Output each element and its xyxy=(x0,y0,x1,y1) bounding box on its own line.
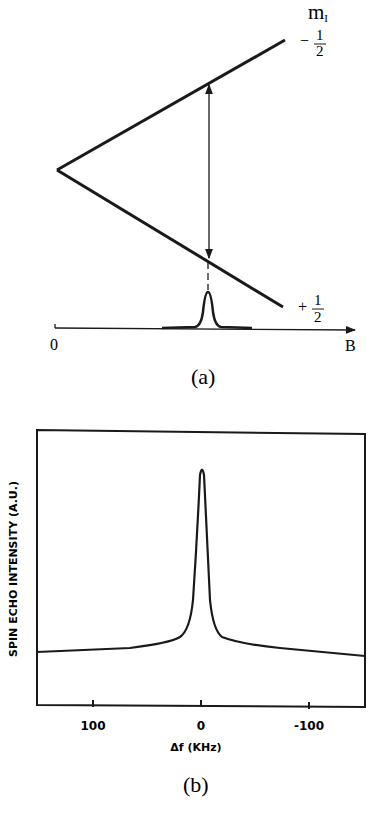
svg-text:B: B xyxy=(345,337,356,354)
energy-level-lower xyxy=(57,170,283,307)
figure-canvas: mI − 1 2 + 1 2 0 B (a) 100 0 -100 Δf (KH… xyxy=(0,0,387,825)
svg-text:100: 100 xyxy=(80,719,105,733)
svg-text:2: 2 xyxy=(314,309,322,325)
svg-text:−: − xyxy=(300,32,309,49)
svg-text:+: + xyxy=(298,298,307,315)
zeeman-diagram: mI − 1 2 + 1 2 0 B (a) xyxy=(50,0,356,389)
svg-text:0: 0 xyxy=(197,719,205,733)
energy-level-upper xyxy=(57,40,285,170)
caption-a: (a) xyxy=(191,364,215,389)
y-axis-label: SPIN ECHO INTENSITY (A.U.) xyxy=(7,481,20,657)
svg-text:1: 1 xyxy=(314,292,322,308)
spin-echo-chart: 100 0 -100 Δf (KHz) SPIN ECHO INTENSITY … xyxy=(7,430,365,797)
svg-text:-100: -100 xyxy=(294,719,324,733)
resonance-peak xyxy=(162,292,252,328)
caption-b: (b) xyxy=(183,772,209,797)
b-axis xyxy=(55,328,355,330)
svg-text:1: 1 xyxy=(316,27,324,43)
x-axis-label: Δf (KHz) xyxy=(170,741,221,754)
svg-text:0: 0 xyxy=(50,336,58,353)
m-label: mI xyxy=(308,0,328,24)
svg-text:2: 2 xyxy=(316,43,324,59)
spectrum-curve xyxy=(37,470,365,657)
